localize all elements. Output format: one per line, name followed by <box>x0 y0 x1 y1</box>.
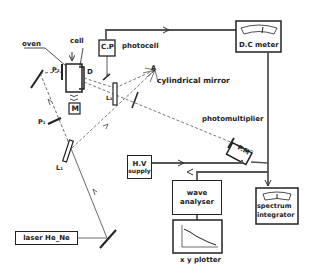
top-left-mirror <box>31 70 43 88</box>
label-cp: C.P <box>101 44 114 51</box>
label-oven: oven <box>22 41 41 48</box>
hv-to-pm-wire <box>152 160 242 163</box>
label-l1: L₁ <box>56 165 63 172</box>
wave-analyser-box: wave analyser <box>172 180 222 215</box>
hv-supply-box: H.V supply <box>127 155 152 179</box>
label-d: D <box>87 69 93 76</box>
label-point-a: A <box>151 65 156 72</box>
oven-leader <box>24 48 66 66</box>
motor-drive <box>70 95 78 101</box>
laser-box: laser He_Ne <box>15 231 78 245</box>
scattered-beam-arrow <box>103 124 108 129</box>
label-xy-plotter: x y plotter <box>180 257 221 264</box>
wave-analyser-label-line1: wave <box>187 189 208 197</box>
laser-label: laser He_Ne <box>23 234 70 242</box>
label-motor: M <box>72 105 79 113</box>
label-l2: L₂ <box>106 95 112 101</box>
cp-to-meter-wire <box>106 30 236 40</box>
lens-l2 <box>113 83 117 105</box>
laser-beam-path <box>40 72 107 238</box>
cylindrical-mirror-element <box>132 92 138 108</box>
label-dc-meter: D.C meter <box>239 42 279 49</box>
label-cylindrical-mirror: cylindrical mirror <box>157 77 230 85</box>
bottom-mirror <box>100 230 116 248</box>
label-spectrum: spectrum <box>257 203 292 210</box>
wave-analyser-input-arrow <box>187 169 193 175</box>
label-cell: cell <box>70 38 84 45</box>
label-integrator: integrator <box>257 212 294 219</box>
label-photomultiplier: photomultiplier <box>202 116 263 123</box>
pm-to-meter-link <box>251 162 268 163</box>
label-photocell: photocell <box>122 43 159 50</box>
label-p2: P₂ <box>52 67 60 74</box>
label-p1: P₁ <box>38 119 46 126</box>
polarizer-p1 <box>48 118 61 124</box>
wave-analyser-label-line2: analyser <box>180 198 214 206</box>
hv-supply-label-line2: supply <box>128 168 150 175</box>
pm-to-wave-analyser-wire <box>197 172 268 180</box>
